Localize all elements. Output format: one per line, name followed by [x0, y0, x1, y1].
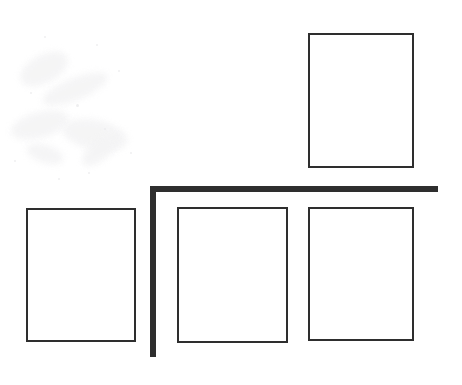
frame-bottom-middle: [177, 207, 288, 343]
scan-speck: [130, 152, 132, 154]
scan-speck: [30, 92, 32, 94]
scan-smudge: [14, 44, 73, 93]
scan-speck: [14, 160, 16, 162]
scan-speck: [118, 70, 120, 72]
scan-smudge: [77, 128, 124, 172]
frame-bottom-right: [308, 207, 414, 341]
diagram-canvas: [0, 0, 462, 385]
scan-smudge: [60, 113, 131, 156]
frame-bottom-left: [26, 208, 136, 342]
scan-speck: [76, 104, 79, 107]
scan-smudge: [24, 140, 66, 169]
scan-smudge: [38, 66, 111, 113]
scan-speck: [104, 128, 106, 130]
frame-top-right: [308, 33, 414, 168]
scan-speck: [44, 36, 46, 38]
bold-horizontal-rule: [150, 186, 438, 192]
scan-speck: [96, 44, 98, 46]
scan-smudge: [8, 105, 73, 146]
scan-speck: [58, 178, 60, 180]
bold-vertical-rule: [150, 186, 156, 357]
scan-speck: [88, 172, 90, 174]
